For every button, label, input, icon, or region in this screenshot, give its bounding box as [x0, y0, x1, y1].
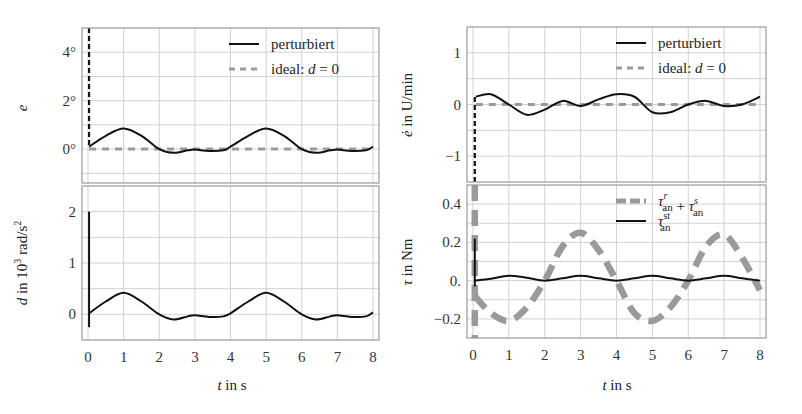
- legend-label: perturbiert: [658, 35, 722, 51]
- legend-label: ideal: d = 0: [271, 61, 339, 77]
- plot-edot-speed-error: −101perturbiertideal: d = 0: [445, 27, 766, 182]
- tau-ylabel: τ in Nm: [399, 238, 415, 285]
- x-tick-label: 2: [156, 349, 164, 365]
- x-tick-label: 0: [469, 347, 477, 363]
- series-line: [475, 276, 760, 281]
- x-tick-label: 4: [227, 349, 235, 365]
- x-tick-label: 1: [120, 349, 128, 365]
- x-tick-label: 3: [191, 349, 199, 365]
- x-tick-label: 5: [262, 349, 270, 365]
- plot-tau-torque: −0.20.0.20.4012345678τran + τsanτstan: [434, 185, 766, 363]
- y-tick-label: −1: [445, 148, 461, 164]
- x-tick-label: 2: [541, 347, 549, 363]
- legend: τran + τsanτstan: [616, 190, 704, 233]
- y-tick-label: 1: [454, 45, 462, 61]
- xlabel-left: t in s: [217, 377, 246, 393]
- y-tick-label: 0.: [450, 273, 461, 289]
- y-tick-label: 4°: [63, 44, 77, 60]
- legend: perturbiertideal: d = 0: [229, 36, 339, 77]
- xlabel-right: t in s: [602, 377, 631, 393]
- x-tick-label: 8: [369, 349, 377, 365]
- y-tick-label: 0: [454, 97, 462, 113]
- figure: 0°2°4°perturbiertideal: d = 0 0120123456…: [0, 0, 802, 414]
- legend-label: ideal: d = 0: [658, 60, 726, 76]
- x-tick-label: 3: [577, 347, 585, 363]
- legend: perturbiertideal: d = 0: [616, 35, 726, 76]
- y-tick-label: 1: [69, 255, 77, 271]
- x-tick-label: 6: [685, 347, 693, 363]
- legend-label: τstan: [658, 210, 671, 233]
- e-ylabel: e: [14, 104, 30, 111]
- x-tick-label: 7: [334, 349, 342, 365]
- d-ylabel: d in 103 rad/s2: [12, 221, 30, 306]
- x-tick-label: 5: [649, 347, 657, 363]
- y-tick-label: 0.2: [442, 234, 461, 250]
- edot-ylabel: ė in U/min: [399, 72, 415, 137]
- y-tick-label: 0.4: [442, 196, 461, 212]
- y-tick-label: 0: [69, 306, 77, 322]
- plot-d-disturbance: 012012345678: [69, 186, 380, 365]
- plot-e-error: 0°2°4°perturbiertideal: d = 0: [63, 28, 380, 183]
- x-tick-label: 1: [505, 347, 513, 363]
- legend-label: perturbiert: [271, 36, 335, 52]
- series-line: [89, 293, 373, 320]
- x-tick-label: 7: [720, 347, 728, 363]
- y-tick-label: 2°: [63, 93, 77, 109]
- y-tick-label: 2: [69, 204, 77, 220]
- x-tick-label: 8: [756, 347, 764, 363]
- y-tick-label: −0.2: [434, 311, 461, 327]
- x-tick-label: 4: [613, 347, 621, 363]
- x-tick-label: 6: [298, 349, 306, 365]
- y-tick-label: 0°: [63, 141, 77, 157]
- x-tick-label: 0: [84, 349, 92, 365]
